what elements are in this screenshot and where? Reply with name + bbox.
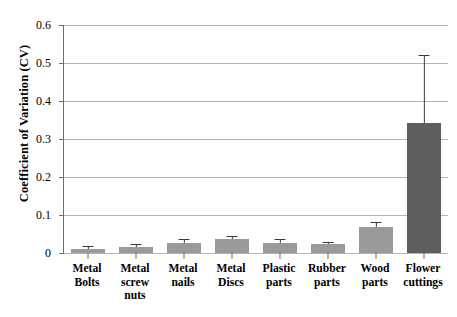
error-bar-cap: [179, 239, 190, 240]
bar-group: [400, 25, 448, 253]
x-tick-mark: [88, 253, 89, 259]
bar: [359, 227, 393, 253]
error-bar-stem: [423, 55, 424, 123]
error-bar: [227, 236, 238, 239]
x-tick-label: Metalnails: [159, 262, 207, 289]
x-tick-mark: [424, 253, 425, 259]
error-bar: [131, 244, 142, 247]
x-tick-mark: [328, 253, 329, 259]
x-tick-mark: [184, 253, 185, 259]
bar-group: [256, 25, 304, 253]
x-tick-label: Plasticparts: [255, 262, 303, 289]
bar: [167, 243, 201, 253]
error-bar-cap: [419, 55, 430, 56]
x-tick-label: Woodparts: [351, 262, 399, 289]
error-bar-cap: [275, 239, 286, 240]
error-bar-cap: [323, 242, 334, 243]
y-tick-label: 0.2: [36, 171, 51, 183]
y-tick-label: 0.1: [36, 209, 51, 221]
y-tick-label: 0.5: [36, 57, 51, 69]
x-tick-label: Rubberparts: [303, 262, 351, 289]
x-tick-label: MetalBolts: [63, 262, 111, 289]
gridline: [64, 253, 448, 254]
error-bar: [179, 239, 190, 243]
y-tick-label: 0.6: [36, 19, 51, 31]
bar-group: [160, 25, 208, 253]
bar: [407, 123, 441, 253]
bar: [215, 239, 249, 253]
error-bar: [371, 222, 382, 227]
bar-group: [208, 25, 256, 253]
bar-group: [352, 25, 400, 253]
error-bar: [83, 246, 94, 249]
y-tick-label: 0.3: [36, 133, 51, 145]
bar-group: [304, 25, 352, 253]
y-tick-label: 0.4: [36, 95, 51, 107]
y-axis-tick-labels: 00.10.20.30.40.50.6: [0, 0, 59, 317]
bar-group: [64, 25, 112, 253]
bar-chart: Coefficient of Variation (CV) 00.10.20.3…: [0, 0, 457, 317]
error-bar: [419, 55, 430, 123]
x-tick-mark: [232, 253, 233, 259]
error-bar: [323, 242, 334, 244]
x-tick-label: Flowercuttings: [399, 262, 447, 289]
error-bar-cap: [371, 222, 382, 223]
bar: [263, 243, 297, 253]
error-bar: [275, 239, 286, 244]
y-tick-mark: [59, 253, 64, 254]
x-tick-mark: [376, 253, 377, 259]
x-tick-mark: [136, 253, 137, 259]
plot-area: [63, 25, 448, 254]
x-axis-tick-labels: MetalBoltsMetalscrewnutsMetalnailsMetalD…: [63, 262, 447, 312]
x-tick-label: MetalDiscs: [207, 262, 255, 289]
error-bar-cap: [83, 246, 94, 247]
x-tick-mark: [280, 253, 281, 259]
bar: [311, 244, 345, 254]
error-bar-cap: [227, 236, 238, 237]
error-bar-cap: [131, 244, 142, 245]
x-tick-label: Metalscrewnuts: [111, 262, 159, 303]
y-tick-label: 0: [45, 247, 51, 259]
bar-group: [112, 25, 160, 253]
